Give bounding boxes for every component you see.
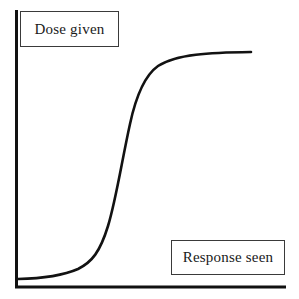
dose-given-label-box: Dose given xyxy=(20,11,119,47)
response-seen-label-box: Response seen xyxy=(171,240,285,275)
dose-given-label-text: Dose given xyxy=(35,22,105,37)
response-seen-label-text: Response seen xyxy=(183,250,274,265)
dose-response-figure: Dose given Response seen xyxy=(0,0,299,299)
